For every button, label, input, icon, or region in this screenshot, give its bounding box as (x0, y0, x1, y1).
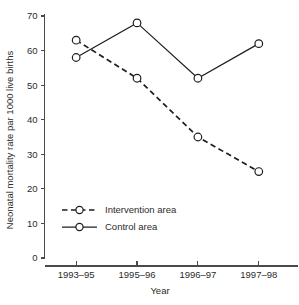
data-point-intervention-area-3 (255, 168, 263, 176)
x-axis-title: Year (150, 285, 169, 296)
x-axis-ticks: 1993–951995–961996–971997–98 (58, 261, 278, 280)
legend-label-intervention-area: Intervention area (105, 204, 177, 215)
chart-figure: 010203040506070 1993–951995–961996–97199… (0, 0, 299, 305)
series-layer (76, 23, 259, 172)
data-point-intervention-area-2 (194, 133, 202, 141)
x-tick-label: 1996–97 (179, 269, 216, 280)
data-point-intervention-area-0 (72, 36, 80, 44)
legend-item-intervention-area: Intervention area (62, 204, 177, 215)
y-axis-ticks: 010203040506070 (27, 10, 45, 263)
data-point-control-area-3 (255, 40, 263, 48)
data-point-control-area-1 (133, 19, 141, 27)
chart-legend: Intervention area Control area (62, 204, 177, 232)
y-tick-label: 70 (27, 10, 38, 21)
x-tick-label: 1995–96 (119, 269, 156, 280)
line-chart: 010203040506070 1993–951995–961996–97199… (0, 0, 299, 305)
series-line-control-area (76, 23, 259, 78)
data-point-control-area-2 (194, 74, 202, 82)
y-tick-label: 30 (27, 149, 38, 160)
legend-marker-icon (76, 223, 83, 230)
y-axis-title: Neonatal mortality rate par 1000 live bi… (4, 51, 15, 230)
y-tick-label: 20 (27, 183, 38, 194)
y-tick-label: 60 (27, 45, 38, 56)
data-point-intervention-area-1 (133, 74, 141, 82)
legend-marker-icon (76, 206, 83, 213)
y-tick-label: 40 (27, 114, 38, 125)
legend-item-control-area: Control area (62, 221, 158, 232)
y-tick-label: 0 (32, 252, 37, 263)
legend-label-control-area: Control area (105, 221, 158, 232)
x-tick-label: 1993–95 (58, 269, 95, 280)
y-tick-label: 50 (27, 80, 38, 91)
clipped-caption (0, 298, 299, 305)
data-point-control-area-0 (72, 54, 80, 62)
y-tick-label: 10 (27, 218, 38, 229)
x-tick-label: 1997–98 (240, 269, 277, 280)
marker-layer (72, 19, 262, 175)
